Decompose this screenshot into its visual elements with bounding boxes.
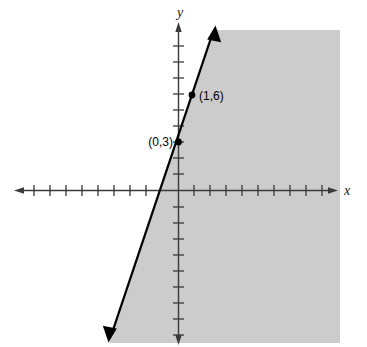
x-axis-label: x — [343, 183, 351, 198]
y-axis-up-arrow-icon — [175, 22, 181, 32]
point-dot-second — [189, 92, 196, 99]
x-axis-left-arrow-icon — [14, 187, 24, 194]
graph-figure: x — [0, 0, 367, 347]
point-dot-y-intercept — [175, 139, 182, 146]
coordinate-plane-svg: x — [0, 0, 367, 347]
y-axis-label: y — [175, 5, 184, 20]
point-label-0-3: (0,3) — [148, 135, 173, 149]
point-label-1-6: (1,6) — [199, 89, 224, 103]
